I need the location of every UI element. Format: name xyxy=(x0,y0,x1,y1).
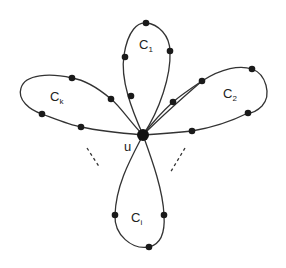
vertex xyxy=(128,93,135,100)
vertex xyxy=(167,48,174,55)
vertex xyxy=(249,66,256,73)
cycle-c2: C2 xyxy=(143,66,267,135)
cycle-label-c1: C1 xyxy=(139,37,153,54)
vertex xyxy=(161,212,168,219)
ellipsis-mark-left xyxy=(87,148,100,168)
vertex xyxy=(245,110,252,117)
cycle-ci: Ci xyxy=(112,135,168,250)
center-vertex-u xyxy=(137,129,149,141)
cycle-label-c2: C2 xyxy=(223,86,237,103)
cycle-label-ck: Ck xyxy=(50,89,64,106)
vertex xyxy=(146,244,153,251)
vertex xyxy=(170,99,177,106)
center-vertex-label: u xyxy=(124,139,131,154)
cycle-c1: C1 xyxy=(122,20,174,135)
cycle-label-ci: Ci xyxy=(131,210,142,227)
ellipsis-mark-right xyxy=(170,148,185,173)
vertex xyxy=(69,75,76,82)
vertex xyxy=(199,78,206,85)
vertex xyxy=(189,128,196,135)
vertex xyxy=(78,124,85,131)
vertex xyxy=(39,111,46,118)
vertex xyxy=(112,212,119,219)
vertex xyxy=(108,96,115,103)
flower-graph-diagram: C1 C2 Ck Ci u xyxy=(0,0,286,268)
vertex xyxy=(143,20,150,27)
vertex xyxy=(122,54,129,61)
